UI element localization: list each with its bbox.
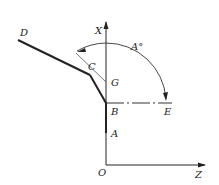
label-x: X (94, 25, 103, 36)
label-o: O (98, 167, 106, 178)
label-d: D (19, 27, 28, 38)
label-b: B (110, 106, 118, 117)
label-z: Z (194, 169, 203, 180)
label-a: A (110, 128, 118, 139)
label-angle: A° (130, 41, 143, 52)
line-d-c (18, 40, 90, 75)
label-g: G (111, 77, 119, 88)
arc-arrowhead-e (163, 92, 168, 101)
label-c: C (88, 61, 96, 72)
diagram-canvas: X D C G A° B E A O Z (0, 0, 219, 185)
label-e: E (163, 106, 172, 117)
